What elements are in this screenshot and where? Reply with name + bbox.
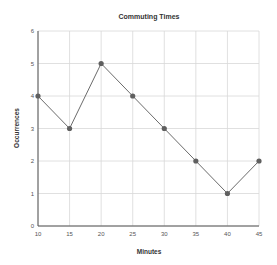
x-tick-label: 40 [224,231,231,237]
y-tick-label: 4 [31,93,35,99]
data-point-marker [67,126,72,131]
data-point-marker [256,158,261,163]
x-tick-label: 30 [161,231,168,237]
data-point-marker [162,126,167,131]
data-point-marker [99,61,104,66]
x-tick-label: 35 [193,231,200,237]
x-axis-label: Minutes [137,248,162,255]
chart-title: Commuting Times [119,13,180,21]
y-tick-label: 3 [31,126,35,132]
x-tick-label: 20 [98,231,105,237]
x-tick-label: 25 [129,231,136,237]
x-tick-labels: 1015202530354045 [35,231,263,237]
y-tick-label: 5 [31,61,35,67]
data-point-marker [35,93,40,98]
y-tick-label: 2 [31,158,35,164]
data-point-marker [193,158,198,163]
data-point-marker [225,191,230,196]
line-chart: Commuting Times 0123456 1015202530354045… [0,0,277,265]
data-point-marker [130,93,135,98]
y-tick-label: 0 [31,223,35,229]
x-tick-label: 15 [66,231,73,237]
y-tick-labels: 0123456 [31,28,35,229]
y-axis-label: Occurrences [13,108,20,148]
x-tick-label: 10 [35,231,42,237]
x-tick-label: 45 [256,231,263,237]
y-tick-label: 6 [31,28,35,34]
y-tick-label: 1 [31,191,35,197]
